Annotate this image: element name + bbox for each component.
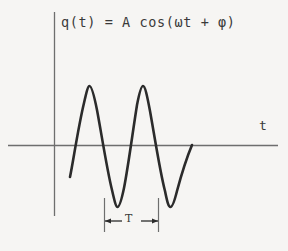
x-axis-label: t	[259, 118, 267, 133]
waveform-figure: q(t) = A cos(ωt + φ) t T	[0, 0, 288, 251]
period-right-arrow-head-icon	[152, 218, 158, 223]
cosine-curve	[70, 86, 192, 207]
equation-label: q(t) = A cos(ωt + φ)	[61, 14, 236, 30]
figure-canvas	[0, 0, 288, 251]
period-label: T	[125, 212, 132, 225]
period-left-arrow-head-icon	[105, 218, 111, 223]
